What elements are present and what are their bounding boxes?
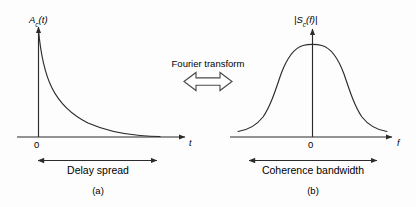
panel-b-y-axis-label: |Sc(f)| xyxy=(294,9,318,28)
panel-b-origin-label: 0 xyxy=(308,139,313,150)
panel-b-caption: (b) xyxy=(223,185,403,196)
panel-b-x-axis-label: f xyxy=(397,138,400,148)
figure-container: Ac(t) t 0 Delay spread (a) Fourier trans… xyxy=(0,0,416,207)
panel-a-caption: (a) xyxy=(0,185,196,196)
panel-a-x-axis-label: t xyxy=(189,138,192,148)
panel-b-span-label: Coherence bandwidth xyxy=(223,164,403,176)
panel-b-y-axis-label-close: (f)| xyxy=(306,14,317,25)
panel-a-delay-profile-curve xyxy=(39,30,161,137)
panel-b-y-axis-label-open: |S xyxy=(294,14,303,25)
panel-a-y-axis-label: Ac(t) xyxy=(29,9,48,28)
fourier-transform-label: Fourier transform xyxy=(163,58,253,69)
fourier-transform-arrow-icon xyxy=(184,73,232,91)
panel-a-y-axis-label-arg: (t) xyxy=(39,14,48,25)
panel-a-group xyxy=(17,27,185,161)
panel-a-origin-label: 0 xyxy=(34,139,39,150)
panel-a-span-label: Delay spread xyxy=(0,164,196,176)
